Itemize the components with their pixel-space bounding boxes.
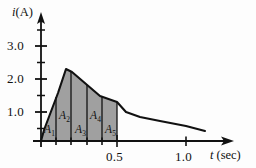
area-label-A3-sub: 3 [82, 129, 86, 138]
area-label-A2-text: A [59, 109, 66, 121]
area-label-A5-text: A [105, 123, 112, 135]
area-label-A3-text: A [75, 123, 82, 135]
area-label-A4-sub: 4 [97, 115, 101, 124]
area-label-A2-sub: 2 [66, 115, 70, 124]
plot-canvas [0, 0, 256, 168]
y-tick-label-2: 2.0 [7, 72, 24, 85]
y-tick-label-3: 3.0 [7, 39, 24, 52]
area-label-A5-sub: 5 [112, 129, 116, 138]
x-axis-title: t(sec) [210, 149, 241, 162]
x-axis-title-unit: (sec) [216, 148, 240, 162]
area-label-A3: A3 [75, 124, 86, 136]
area-label-A4: A4 [90, 110, 101, 122]
x-tick-label-10: 1.0 [175, 150, 192, 163]
area-label-A1: A1 [44, 124, 55, 136]
area-label-A1-sub: 1 [51, 129, 55, 138]
x-tick-label-05: 0.5 [106, 150, 123, 163]
area-label-A4-text: A [90, 109, 97, 121]
current-vs-time-figure: i(A) t(sec) 3.0 2.0 1.0 0.5 1.0 A1 A2 A3… [0, 0, 256, 168]
y-axis-title: i(A) [12, 6, 33, 19]
area-label-A1-text: A [44, 123, 51, 135]
area-label-A5: A5 [105, 124, 116, 136]
y-tick-label-1: 1.0 [7, 105, 24, 118]
x-axis-title-symbol: t [210, 148, 213, 162]
y-axis-title-unit: (A) [15, 5, 32, 19]
area-label-A2: A2 [59, 110, 70, 122]
